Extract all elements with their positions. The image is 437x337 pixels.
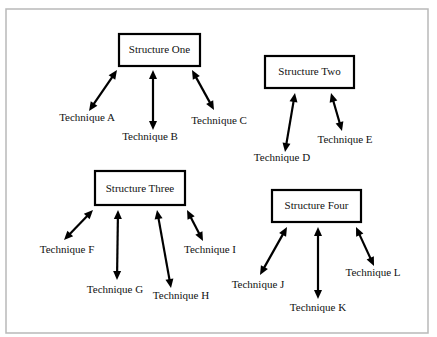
diagram-canvas: Structure One Technique A Technique B Te…: [0, 0, 437, 337]
technique-f-label: Technique F: [40, 243, 95, 255]
technique-e-label: Technique E: [317, 133, 372, 145]
arrow-shaft: [117, 217, 118, 273]
technique-d-label: Technique D: [254, 151, 310, 163]
technique-i-label: Technique I: [184, 243, 236, 255]
technique-g-label: Technique G: [87, 283, 143, 295]
structure-three-label: Structure Three: [106, 182, 175, 194]
technique-l-label: Technique L: [345, 266, 400, 278]
technique-j-label: Technique J: [232, 278, 285, 290]
technique-a-label: Technique A: [59, 111, 115, 123]
diagram-frame: [6, 9, 428, 333]
technique-c-label: Technique C: [191, 114, 247, 126]
technique-k-label: Technique K: [290, 301, 346, 313]
structure-two-label: Structure Two: [278, 65, 341, 77]
structure-one-label: Structure One: [129, 43, 191, 55]
technique-h-label: Technique H: [153, 289, 209, 301]
technique-b-label: Technique B: [122, 130, 178, 142]
structure-four-label: Structure Four: [285, 199, 349, 211]
